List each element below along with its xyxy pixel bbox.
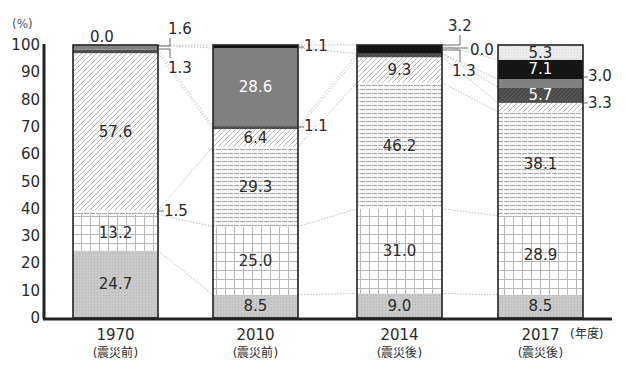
bar-segment bbox=[73, 45, 158, 49]
side-value-label: 1.3 bbox=[452, 62, 476, 80]
y-tick-label: 10 bbox=[21, 282, 40, 300]
side-value-label: 1.6 bbox=[168, 20, 192, 38]
connector-line bbox=[298, 83, 357, 147]
segment-value-label: 29.3 bbox=[239, 178, 272, 196]
side-value-label: 1.3 bbox=[168, 59, 192, 77]
y-tick-label: 30 bbox=[21, 227, 40, 245]
bar-segment bbox=[213, 126, 298, 129]
segment-value-label: 31.0 bbox=[383, 242, 416, 260]
leader-line bbox=[158, 49, 170, 58]
x-category-sublabel: (震災前) bbox=[93, 345, 138, 360]
x-category-sublabel: (震災後) bbox=[518, 346, 563, 360]
segment-value-label: 7.1 bbox=[529, 60, 553, 78]
segment-value-label: 28.9 bbox=[524, 246, 557, 264]
x-category-sublabel: (震災後) bbox=[377, 346, 422, 360]
segment-value-label: 24.7 bbox=[99, 275, 132, 293]
x-axis-unit: (年度) bbox=[570, 326, 603, 341]
y-axis-unit: (%) bbox=[12, 17, 33, 31]
leader-line bbox=[442, 35, 460, 45]
bar-segment bbox=[357, 45, 442, 54]
bar-2010: 8.525.029.36.428.6 bbox=[213, 45, 298, 318]
y-axis-ticks: 0102030405060708090100 bbox=[11, 36, 40, 327]
y-tick-label: 100 bbox=[11, 36, 40, 54]
bar-segment bbox=[498, 103, 583, 112]
bars: 24.713.257.68.525.029.36.428.69.031.046.… bbox=[73, 44, 583, 318]
connector-line bbox=[298, 293, 357, 294]
segment-value-label: 9.0 bbox=[388, 297, 412, 315]
connector-line bbox=[442, 83, 498, 112]
segment-value-label: 8.5 bbox=[529, 297, 553, 315]
x-category-sublabel: (震災前) bbox=[233, 345, 278, 360]
x-axis-labels: 1970(震災前)2010(震災前)2014(震災後)2017(震災後) bbox=[93, 326, 563, 360]
segment-value-label: 57.6 bbox=[99, 123, 132, 141]
segment-value-label: 38.1 bbox=[524, 155, 557, 173]
side-value-label: 3.0 bbox=[588, 67, 612, 85]
side-value-label: 3.2 bbox=[448, 17, 472, 35]
segment-value-label: 28.6 bbox=[239, 78, 272, 96]
connector-line bbox=[442, 209, 498, 216]
y-tick-label: 90 bbox=[21, 63, 40, 81]
leader-line bbox=[442, 50, 460, 62]
x-category-label: 2014 bbox=[380, 326, 418, 344]
side-value-label: 1.5 bbox=[164, 202, 188, 220]
y-tick-label: 0 bbox=[30, 309, 40, 327]
y-tick-label: 80 bbox=[21, 91, 40, 109]
y-tick-label: 70 bbox=[21, 118, 40, 136]
segment-value-label: 13.2 bbox=[99, 224, 132, 242]
connector-line bbox=[158, 251, 213, 295]
bar-segment bbox=[498, 79, 583, 87]
bar-segment bbox=[357, 54, 442, 58]
bar-segment bbox=[73, 210, 158, 214]
bar-segment bbox=[73, 50, 158, 54]
segment-value-label: 5.7 bbox=[529, 86, 553, 104]
connector-line bbox=[158, 147, 213, 211]
segment-value-label: 9.3 bbox=[388, 61, 412, 79]
x-category-label: 1970 bbox=[96, 326, 134, 344]
y-tick-label: 60 bbox=[21, 145, 40, 163]
bar-2017: 8.528.938.15.77.15.3 bbox=[498, 44, 583, 318]
side-value-label: 0.0 bbox=[470, 41, 494, 59]
bar-2014: 9.031.046.29.3 bbox=[357, 45, 442, 318]
segment-value-label: 5.3 bbox=[529, 44, 553, 62]
y-tick-label: 40 bbox=[21, 200, 40, 218]
segment-value-label: 25.0 bbox=[239, 252, 272, 270]
x-category-label: 2017 bbox=[521, 326, 559, 344]
segment-value-label: 6.4 bbox=[244, 129, 268, 147]
connector-line bbox=[298, 209, 357, 227]
stacked-bar-chart: (%) 0102030405060708090100 24.713.257.68… bbox=[0, 0, 626, 380]
bar-1970: 24.713.257.6 bbox=[73, 45, 158, 318]
side-value-label: 3.3 bbox=[588, 94, 612, 112]
segment-value-label: 8.5 bbox=[244, 297, 268, 315]
y-tick-label: 50 bbox=[21, 173, 40, 191]
side-value-label: 1.1 bbox=[304, 37, 328, 55]
connector-line bbox=[442, 293, 498, 294]
connector-lines bbox=[158, 45, 498, 295]
side-value-label: 0.0 bbox=[90, 28, 114, 46]
side-value-label: 1.1 bbox=[304, 117, 328, 135]
segment-value-label: 46.2 bbox=[383, 137, 416, 155]
x-category-label: 2010 bbox=[236, 326, 274, 344]
y-tick-label: 20 bbox=[21, 254, 40, 272]
